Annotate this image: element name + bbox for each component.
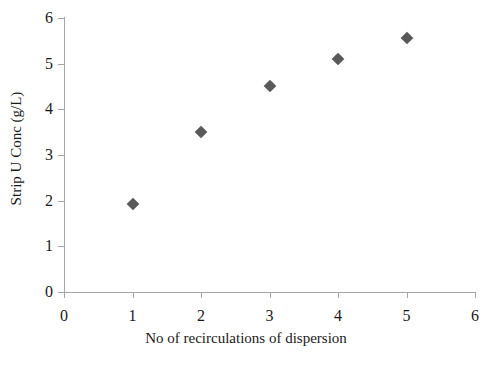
- y-tick-label: 3: [45, 147, 53, 163]
- x-tick: [64, 292, 65, 298]
- x-tick: [133, 292, 134, 298]
- y-tick: [58, 201, 64, 202]
- x-axis-title: No of recirculations of dispersion: [0, 330, 492, 347]
- y-tick-label: 1: [45, 238, 53, 254]
- x-tick-label: 5: [403, 308, 411, 324]
- y-tick: [58, 109, 64, 110]
- y-axis-title: Strip U Conc (g/L): [8, 29, 25, 269]
- plot-area: 0123456 0123456: [64, 18, 475, 292]
- x-tick: [407, 292, 408, 298]
- x-tick: [270, 292, 271, 298]
- x-tick-label: 1: [129, 308, 137, 324]
- x-tick-label: 3: [266, 308, 274, 324]
- y-tick-label: 5: [45, 56, 53, 72]
- x-tick-label: 4: [334, 308, 342, 324]
- data-point: [400, 32, 413, 45]
- y-tick: [58, 246, 64, 247]
- y-tick-label: 6: [45, 10, 53, 26]
- y-tick-label: 0: [45, 284, 53, 300]
- x-tick: [201, 292, 202, 298]
- y-tick: [58, 155, 64, 156]
- data-point: [126, 197, 139, 210]
- y-tick-label: 2: [45, 193, 53, 209]
- x-tick-label: 2: [197, 308, 205, 324]
- y-tick: [58, 18, 64, 19]
- x-tick: [475, 292, 476, 298]
- x-tick: [338, 292, 339, 298]
- x-tick-label: 6: [471, 308, 479, 324]
- data-point: [195, 126, 208, 139]
- scatter-chart: 0123456 0123456 Strip U Conc (g/L) No of…: [0, 0, 492, 368]
- y-tick-label: 4: [45, 101, 53, 117]
- data-point: [332, 53, 345, 66]
- y-tick: [58, 64, 64, 65]
- data-point: [263, 80, 276, 93]
- x-tick-label: 0: [60, 308, 68, 324]
